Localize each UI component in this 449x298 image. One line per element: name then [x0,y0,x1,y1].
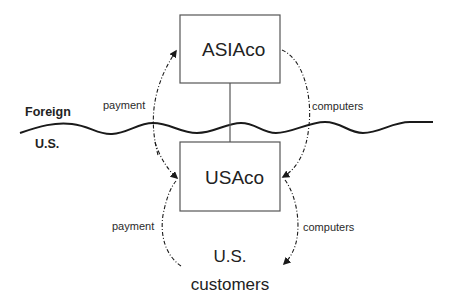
computers-label-upper: computers [312,101,363,112]
computers-label-lower: computers [303,222,354,233]
computers-arrow-lower [284,180,298,264]
border-wave-line [20,122,433,134]
payment-arrow-to-usaco-segment [155,142,177,178]
payment-label-upper: payment [103,100,145,111]
us-customers-label-line2: customers [190,276,270,293]
computers-arrow-upper [282,50,310,177]
region-label-foreign: Foreign [25,106,71,119]
payment-label-lower: payment [112,221,154,232]
asiaco-label: ASIAco [202,40,265,59]
region-label-us: U.S. [35,138,59,151]
us-customers-label-line1: U.S. [210,248,250,265]
usaco-label: USAco [205,168,264,187]
payment-arrow-lower [162,181,181,266]
payment-arrow-upper [153,51,176,155]
